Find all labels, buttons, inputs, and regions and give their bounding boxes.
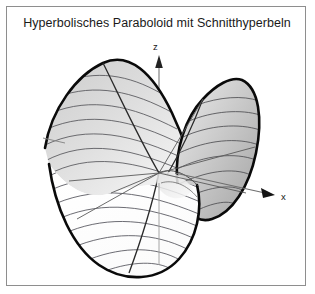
page-title: Hyperbolisches Paraboloid mit Schnitthyp… bbox=[7, 16, 307, 31]
x-axis-label: x bbox=[281, 191, 286, 202]
hyperbolic-paraboloid-figure: z bbox=[7, 33, 307, 285]
figure-frame: Hyperbolisches Paraboloid mit Schnitthyp… bbox=[6, 6, 306, 286]
plot-area: z bbox=[7, 33, 307, 285]
z-axis-label: z bbox=[153, 41, 158, 52]
